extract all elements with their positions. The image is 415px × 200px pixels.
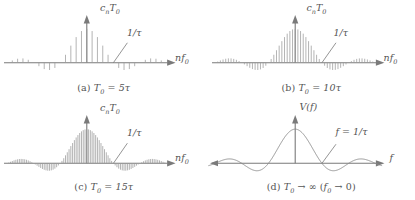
panel-tag-a: (a) — [77, 82, 90, 93]
panel-b: cnT0 nf0 1/τ (b) T0 = 10τ — [208, 0, 415, 100]
null-annotation-b: 1/τ — [334, 27, 349, 38]
y-axis-label-c: cnT0 — [100, 102, 120, 116]
panel-c: cnT0 nf0 1/τ (c) T0 = 15τ — [0, 100, 208, 200]
panel-tag-d: (d) — [267, 181, 281, 192]
x-axis-label-d: f — [390, 152, 394, 163]
panel-d: V(f) f f = 1/τ (d) T0 → ∞ (f0 → 0) — [208, 100, 415, 200]
x-axis-label-a: nf0 — [175, 52, 189, 66]
null-annotation-d: f = 1/τ — [336, 126, 368, 137]
panel-tag-c: (c) — [74, 181, 87, 192]
panel-caption-d: (d) T0 → ∞ (f0 → 0) — [208, 181, 415, 195]
null-annotation-a: 1/τ — [127, 27, 142, 38]
y-axis-label-a: cnT0 — [100, 2, 120, 16]
panel-tag-b: (b) — [281, 82, 295, 93]
x-axis-label-b: nf0 — [384, 52, 398, 66]
figure-grid: cnT0 nf0 1/τ (a) T0 = 5τ cnT0 nf0 1/τ (b… — [0, 0, 415, 199]
panel-caption-a: (a) T0 = 5τ — [0, 82, 208, 96]
x-axis-label-c: nf0 — [175, 152, 189, 166]
panel-a: cnT0 nf0 1/τ (a) T0 = 5τ — [0, 0, 208, 100]
null-annotation-c: 1/τ — [127, 127, 142, 138]
panel-caption-c: (c) T0 = 15τ — [0, 181, 208, 195]
panel-caption-b: (b) T0 = 10τ — [208, 82, 415, 96]
y-axis-label-b: cnT0 — [307, 2, 327, 16]
y-axis-label-d: V(f) — [300, 101, 318, 112]
